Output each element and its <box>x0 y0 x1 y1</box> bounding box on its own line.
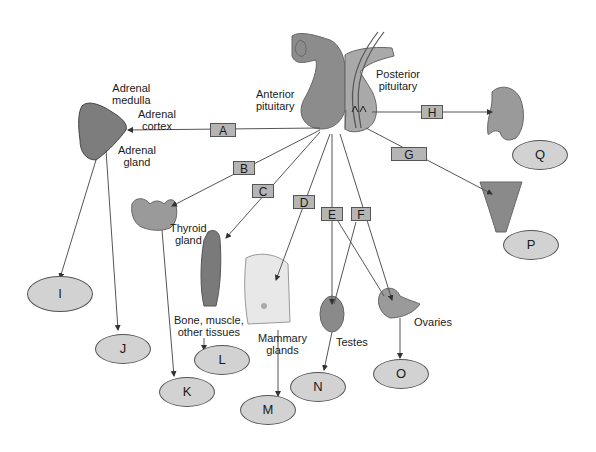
answer-oval-o[interactable]: O <box>373 359 429 389</box>
answer-oval-q[interactable]: Q <box>512 140 568 170</box>
answer-oval-p[interactable]: P <box>503 230 559 260</box>
label-bone-muscle: Bone, muscle,other tissues <box>174 314 244 338</box>
answer-oval-i[interactable]: I <box>27 276 93 312</box>
answer-oval-l[interactable]: L <box>194 345 250 375</box>
label-anterior-pituitary: Anteriorpituitary <box>256 88 295 112</box>
hormone-box-b[interactable]: B <box>233 161 255 175</box>
label-testes: Testes <box>336 336 368 348</box>
answer-oval-m[interactable]: M <box>240 395 296 425</box>
label-adrenal-cortex: Adrenalcortex <box>138 108 176 132</box>
label-ovaries: Ovaries <box>414 316 452 328</box>
label-thyroid-gland: Thyroidgland <box>170 222 207 246</box>
kidney-shape <box>488 87 524 140</box>
hormone-box-e[interactable]: E <box>321 207 343 221</box>
ovary-shape <box>378 288 420 318</box>
answer-oval-k[interactable]: K <box>159 377 215 407</box>
hormone-box-a[interactable]: A <box>210 123 236 137</box>
label-adrenal-gland: Adrenalgland <box>118 144 156 168</box>
answer-oval-n[interactable]: N <box>290 372 346 402</box>
uterus-shape <box>480 182 522 232</box>
endocrine-diagram: Adrenalmedulla Adrenalcortex Adrenalglan… <box>0 0 596 452</box>
answer-oval-j[interactable]: J <box>95 334 151 364</box>
hormone-box-c[interactable]: C <box>252 184 274 198</box>
hormone-box-g[interactable]: G <box>391 147 427 161</box>
label-mammary-glands: Mammaryglands <box>258 332 307 356</box>
hormone-box-f[interactable]: F <box>351 207 371 221</box>
label-adrenal-medulla: Adrenalmedulla <box>112 82 151 106</box>
hormone-box-h[interactable]: H <box>421 105 443 119</box>
label-posterior-pituitary: Posteriorpituitary <box>376 68 420 92</box>
torso-shape <box>245 254 290 324</box>
hormone-box-d[interactable]: D <box>293 195 315 209</box>
